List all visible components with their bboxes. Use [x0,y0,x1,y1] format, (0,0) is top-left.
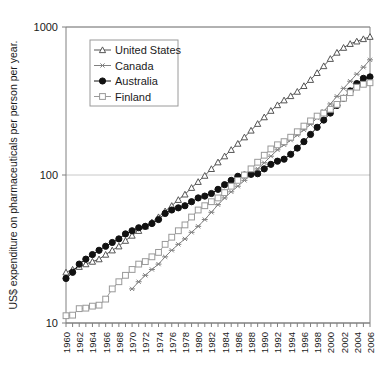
data-point [288,134,294,140]
marker-circle [288,151,294,157]
marker-circle [136,225,142,231]
xtick-label-1962: 1962 [74,332,85,353]
xtick-label-1970: 1970 [127,332,138,353]
marker-square [189,214,195,220]
xtick-label-1982: 1982 [206,332,217,353]
marker-square [96,302,102,308]
marker-square [162,241,168,247]
data-point [122,231,128,237]
data-point [189,230,195,234]
marker-circle [307,131,313,137]
data-point [275,142,281,148]
xtick-label-1996: 1996 [299,332,310,353]
data-point [360,65,366,69]
y-axis-title: US$ expenditure on pharmaceuticals per p… [7,40,19,309]
data-point [327,106,333,112]
data-point [347,79,353,83]
marker-square [341,95,347,101]
marker-square [63,313,69,319]
marker-circle [208,190,214,196]
data-point [149,220,155,226]
data-point [288,151,294,157]
marker-square [136,261,142,267]
marker-square [208,199,214,205]
marker-square [294,129,300,135]
data-point [367,80,373,86]
data-point [202,193,208,199]
xtick-label-1986: 1986 [233,332,244,353]
data-point [228,183,234,189]
legend-label-finland: Finland [115,91,151,103]
marker-circle [274,158,280,164]
marker-square [228,183,234,189]
data-point [274,158,280,164]
data-point [354,72,360,76]
xtick-label-2000: 2000 [325,332,336,353]
data-point [89,258,95,264]
marker-square [248,166,254,172]
marker-circle [175,205,181,211]
data-point [109,239,115,245]
data-point [208,210,214,214]
marker-square [261,152,267,158]
marker-square [202,203,208,209]
marker-circle [96,247,102,253]
ytick-label-10: 10 [46,317,58,329]
marker-square [90,303,96,309]
marker-square [76,306,82,312]
marker-triangle [63,269,69,275]
marker-square [354,84,360,90]
chart-legend: United StatesCanadaAustraliaFinland [90,40,182,106]
chart-canvas: 1000100101960196219641966196819701972197… [0,0,391,376]
marker-circle [268,161,274,167]
data-point [228,190,234,194]
data-point [202,203,208,209]
data-point [189,214,195,220]
data-point [195,195,201,201]
marker-square [83,305,89,311]
marker-square [100,94,106,100]
data-point [268,146,274,152]
legend-label-australia: Australia [115,75,159,87]
data-point [215,203,221,207]
marker-circle [261,166,267,172]
data-point [169,207,175,213]
data-point [215,186,221,192]
data-point [90,303,96,309]
data-point [241,178,247,182]
data-point [89,251,95,257]
marker-triangle [274,102,280,108]
xtick-label-1960: 1960 [61,332,72,353]
xtick-label-1974: 1974 [154,332,165,353]
xtick-label-1978: 1978 [180,332,191,353]
data-point [255,159,261,165]
data-point [307,131,313,137]
legend-label-united-states: United States [115,44,182,56]
marker-circle [109,239,115,245]
marker-circle [142,223,148,229]
data-point [182,222,188,228]
marker-square [327,106,333,112]
data-point [341,86,347,90]
data-point [142,223,148,229]
data-point [347,41,353,47]
marker-square [142,259,148,265]
data-point [294,129,300,135]
marker-triangle [354,38,360,44]
data-point [142,259,148,265]
marker-circle [228,177,234,183]
marker-square [175,228,181,234]
marker-circle [103,243,109,249]
data-point [274,102,280,108]
data-point [235,184,241,188]
marker-circle [314,124,320,130]
marker-square [103,296,109,302]
xtick-label-2004: 2004 [352,332,363,353]
data-point [156,262,162,266]
marker-square [129,267,135,273]
data-point [367,34,373,40]
xtick-label-2002: 2002 [339,332,350,353]
data-point [116,279,122,285]
marker-circle [321,117,327,123]
data-point [103,243,109,249]
